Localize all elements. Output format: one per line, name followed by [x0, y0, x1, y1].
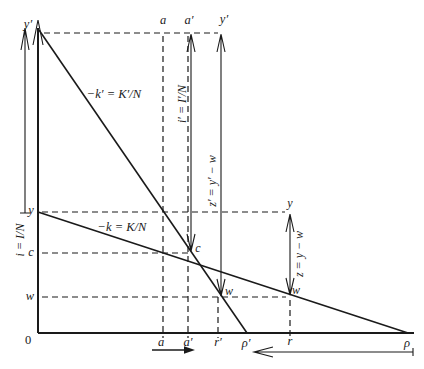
- label-a-prime-top: a′: [185, 14, 194, 27]
- label-k-prime-line: −k′ = K′/N: [87, 88, 141, 101]
- dashed-reference-lines: [42, 33, 290, 338]
- label-k-line: −k = K/N: [98, 221, 147, 234]
- label-a-bottom: a: [158, 336, 164, 349]
- label-y-prime-top: y′: [220, 13, 228, 26]
- label-c-point: c: [195, 242, 200, 254]
- label-origin: 0: [25, 334, 31, 347]
- label-c-left: c: [28, 246, 34, 259]
- label-w-right: w: [292, 284, 300, 296]
- label-y-right: y: [287, 197, 292, 209]
- rho-shift-arrow: [254, 347, 413, 357]
- diagram-stage: y′ a a′ y′ −k′ = K′/N −k = K/N i = I/N i…: [0, 0, 424, 369]
- i-arrow: [20, 28, 30, 213]
- label-w-left: w: [26, 290, 34, 303]
- label-i-arrow: i = I/N: [14, 224, 26, 257]
- label-z-arrow: z = y − w: [293, 231, 305, 277]
- label-r-prime-bottom: r′: [214, 336, 222, 349]
- label-a-prime-bottom: a′: [184, 336, 193, 349]
- label-z-prime-arrow: z′ = y′ − w: [206, 155, 218, 206]
- label-i-prime-arrow: i′ = I′/N: [176, 85, 188, 123]
- label-rho-prime: ρ′: [242, 337, 251, 350]
- label-r-bottom: r: [288, 335, 293, 348]
- label-y-left: y: [28, 204, 34, 217]
- label-a-top: a: [160, 14, 166, 27]
- label-w-mid: w: [225, 285, 233, 297]
- k-line: [38, 212, 408, 333]
- label-y-prime-axis-top: y′: [24, 18, 32, 31]
- label-rho: ρ: [404, 337, 410, 350]
